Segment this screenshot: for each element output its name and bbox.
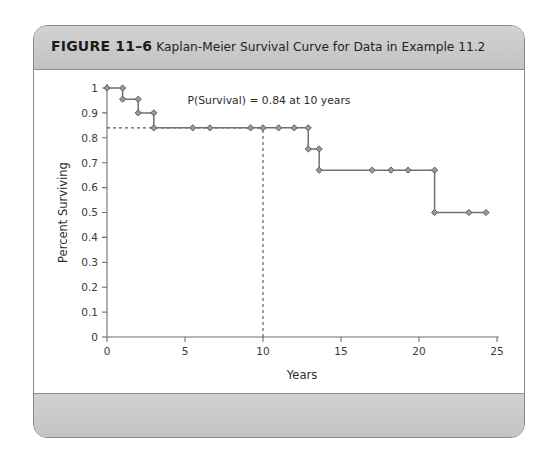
- data-point-marker: [316, 167, 322, 173]
- figure-plot-area: 00.10.20.30.40.50.60.70.80.910510152025Y…: [34, 70, 524, 393]
- figure-title: FIGURE 11–6 Kaplan-Meier Survival Curve …: [51, 38, 485, 54]
- survival-annotation: P(Survival) = 0.84 at 10 years: [187, 94, 350, 107]
- y-tick-label: 0.5: [81, 206, 98, 218]
- data-point-marker: [120, 85, 126, 91]
- figure-page: FIGURE 11–6 Kaplan-Meier Survival Curve …: [0, 0, 556, 461]
- data-point-marker: [432, 209, 438, 215]
- y-tick-label: 0: [91, 331, 98, 343]
- x-tick-label: 15: [334, 345, 347, 357]
- data-point-marker: [291, 125, 297, 131]
- data-point-marker: [151, 125, 157, 131]
- y-axis-title: Percent Surviving: [56, 162, 70, 263]
- x-tick-label: 20: [412, 345, 425, 357]
- y-tick-label: 0.6: [81, 181, 98, 193]
- data-point-marker: [432, 167, 438, 173]
- data-point-marker: [260, 125, 266, 131]
- x-tick-label: 0: [104, 345, 111, 357]
- data-point-marker: [276, 125, 282, 131]
- y-tick-label: 0.7: [81, 157, 98, 169]
- x-tick-label: 25: [490, 345, 503, 357]
- y-tick-label: 0.8: [81, 132, 98, 144]
- figure-footer-band: [34, 393, 524, 437]
- figure-number: FIGURE 11–6: [51, 38, 152, 54]
- data-point-marker: [151, 110, 157, 116]
- data-point-marker: [369, 167, 375, 173]
- y-tick-label: 0.4: [81, 231, 98, 243]
- x-axis-title: Years: [286, 368, 317, 382]
- data-point-marker: [305, 125, 311, 131]
- kaplan-meier-chart: 00.10.20.30.40.50.60.70.80.910510152025Y…: [34, 70, 524, 393]
- data-point-marker: [207, 125, 213, 131]
- y-tick-label: 1: [91, 82, 98, 94]
- x-tick-label: 5: [182, 345, 189, 357]
- data-point-marker: [305, 146, 311, 152]
- y-tick-label: 0.1: [81, 306, 98, 318]
- data-point-marker: [135, 96, 141, 102]
- figure-container: FIGURE 11–6 Kaplan-Meier Survival Curve …: [33, 25, 525, 438]
- data-point-marker: [483, 209, 489, 215]
- data-point-marker: [388, 167, 394, 173]
- y-tick-label: 0.9: [81, 107, 98, 119]
- data-point-marker: [120, 96, 126, 102]
- y-tick-label: 0.3: [81, 256, 98, 268]
- figure-caption: Kaplan-Meier Survival Curve for Data in …: [156, 40, 485, 54]
- x-tick-label: 10: [256, 345, 269, 357]
- data-point-marker: [104, 85, 110, 91]
- data-point-marker: [190, 125, 196, 131]
- data-point-marker: [316, 146, 322, 152]
- data-point-marker: [405, 167, 411, 173]
- data-point-marker: [135, 110, 141, 116]
- y-tick-label: 0.2: [81, 281, 98, 293]
- data-point-marker: [466, 209, 472, 215]
- data-point-marker: [247, 125, 253, 131]
